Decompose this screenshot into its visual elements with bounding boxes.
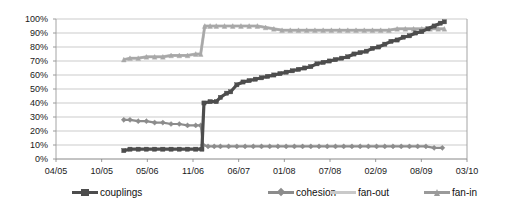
chart-legend: couplingscohesionfan-outfan-in [0, 184, 512, 203]
legend-swatch-square-icon [72, 188, 98, 197]
legend-item-fan-in[interactable]: fan-in [424, 187, 477, 198]
x-axis-tick-label: 03/10 [456, 167, 479, 176]
legend-swatch-diamond-icon [268, 188, 294, 197]
x-axis-tick-label: 01/08 [273, 167, 296, 176]
x-axis-tick-label: 10/05 [90, 167, 113, 176]
legend-label: fan-out [358, 187, 389, 198]
x-axis-tick-label: 05/06 [136, 167, 159, 176]
x-axis-tick-label: 11/06 [182, 167, 204, 176]
legend-swatch-triangle-icon [424, 188, 450, 197]
legend-label: couplings [100, 187, 142, 198]
x-axis-tick-labels: 04/0510/0505/0611/0606/0701/0807/0802/09… [0, 0, 512, 203]
metrics-line-chart: 0%10%20%30%40%50%60%70%80%90%100% 04/051… [0, 0, 512, 203]
legend-label: fan-in [452, 187, 477, 198]
x-axis-tick-label: 08/09 [410, 167, 433, 176]
legend-item-cohesion[interactable]: cohesion [268, 187, 336, 198]
legend-swatch-none-icon [330, 188, 356, 197]
legend-item-fan-out[interactable]: fan-out [330, 187, 389, 198]
x-axis-tick-label: 07/08 [319, 167, 342, 176]
x-axis-tick-label: 06/07 [227, 167, 250, 176]
x-axis-tick-label: 02/09 [364, 167, 387, 176]
x-axis-tick-label: 04/05 [45, 167, 68, 176]
legend-item-couplings[interactable]: couplings [72, 187, 142, 198]
